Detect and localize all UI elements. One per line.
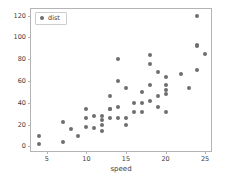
y-tick-mark [28, 146, 31, 147]
chart-legend: dist [35, 12, 67, 25]
data-point [124, 86, 128, 90]
y-tick-label: 60 [18, 78, 26, 85]
data-point [148, 62, 152, 66]
data-point [164, 88, 168, 92]
data-point [100, 118, 104, 122]
data-point [164, 92, 168, 96]
data-point [179, 72, 183, 76]
data-point [37, 134, 41, 138]
data-point [37, 142, 41, 146]
x-tick-mark [126, 151, 127, 154]
legend-marker-icon [40, 16, 44, 20]
data-point [116, 105, 120, 109]
data-point [92, 126, 96, 130]
x-axis-label: speed [30, 166, 212, 173]
x-tick-mark [47, 151, 48, 154]
y-tick-label: 20 [18, 121, 26, 128]
data-point [100, 114, 104, 118]
data-point [124, 123, 128, 127]
data-point [164, 75, 168, 79]
data-point [61, 140, 65, 144]
data-point [164, 83, 168, 87]
y-tick-mark [28, 16, 31, 17]
data-point [140, 101, 144, 105]
data-point [116, 116, 120, 120]
data-point [84, 107, 88, 111]
y-tick-label: 80 [18, 56, 26, 63]
x-tick-mark [205, 151, 206, 154]
y-tick-label: 0 [22, 143, 26, 150]
data-point [108, 94, 112, 98]
data-point [195, 68, 199, 72]
data-point [100, 129, 104, 133]
data-point [116, 79, 120, 83]
data-point [108, 116, 112, 120]
y-tick-mark [28, 103, 31, 104]
data-point [84, 116, 88, 120]
data-point [156, 70, 160, 74]
data-point [84, 125, 88, 129]
data-point [92, 114, 96, 118]
x-tick-label: 15 [122, 156, 130, 163]
y-tick-label: 120 [14, 12, 26, 19]
data-point [156, 94, 160, 98]
data-point [148, 99, 152, 103]
data-point [187, 86, 191, 90]
y-tick-mark [28, 59, 31, 60]
data-point [124, 116, 128, 120]
data-point [148, 83, 152, 87]
plot-data-area [31, 9, 211, 151]
x-tick-mark [166, 151, 167, 154]
data-point [76, 134, 80, 138]
x-tick-label: 5 [45, 156, 49, 163]
data-point [132, 110, 136, 114]
x-tick-mark [86, 151, 87, 154]
data-point [156, 105, 160, 109]
y-tick-mark [28, 125, 31, 126]
x-tick-label: 10 [82, 156, 90, 163]
data-point [132, 101, 136, 105]
data-point [203, 52, 207, 56]
y-tick-label: 40 [18, 100, 26, 107]
x-tick-label: 25 [201, 156, 209, 163]
data-point [69, 127, 73, 131]
data-point [195, 14, 199, 18]
legend-label-dist: dist [48, 15, 60, 22]
y-tick-mark [28, 81, 31, 82]
x-tick-label: 20 [161, 156, 169, 163]
data-point [148, 53, 152, 57]
plot-axes: 020406080100120 510152025 dist [30, 8, 212, 152]
data-point [140, 90, 144, 94]
data-point [100, 123, 104, 127]
data-point [140, 110, 144, 114]
y-tick-mark [28, 37, 31, 38]
scatter-plot-figure: 020406080100120 510152025 dist speed [0, 0, 228, 181]
y-tick-label: 100 [14, 34, 26, 41]
data-point [108, 107, 112, 111]
data-point [61, 120, 65, 124]
data-point [116, 57, 120, 61]
data-point [164, 110, 168, 114]
